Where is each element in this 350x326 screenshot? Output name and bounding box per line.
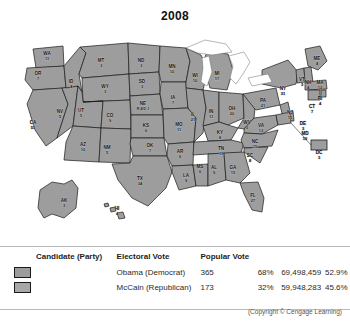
- cell-popular-votes: 69,498,459: [281, 265, 325, 280]
- state-label-WI: WI10: [192, 73, 198, 83]
- results-legend: Candidate (Party) Electoral Vote Popular…: [0, 246, 350, 310]
- color-swatch: [14, 282, 31, 293]
- state-votes-MI: 17: [215, 76, 220, 81]
- state-votes-AZ: 10: [81, 147, 86, 152]
- state-label-NY: NY31: [280, 86, 286, 96]
- state-label-RI: RI4: [318, 96, 323, 106]
- electoral-map-figure: 2008: [0, 0, 350, 326]
- cell-popular-votes: 59,948,283: [281, 280, 325, 295]
- header-candidate: Candidate (Party): [14, 247, 117, 265]
- cell-popular-pct: 52.9%: [325, 265, 350, 280]
- cell-electoral-pct: 68%: [258, 265, 282, 280]
- page-title: 2008: [0, 9, 350, 23]
- legend-swatch-cell: [14, 265, 117, 280]
- cell-candidate: Obama (Democrat): [117, 265, 201, 280]
- state-votes-NE: R-4/D-1: [137, 107, 149, 111]
- state-label-MI: MI17: [214, 71, 220, 81]
- state-label-CT: CT7: [309, 104, 315, 114]
- state-shape-SD: [129, 72, 160, 96]
- table-row: Obama (Democrat)36568%69,498,45952.9%: [14, 265, 350, 280]
- state-shape-CA: [27, 88, 68, 146]
- state-shape-HI-3: [117, 212, 125, 219]
- state-votes-NY: 31: [281, 91, 286, 96]
- header-electoral-vote: Electoral Vote: [117, 247, 201, 265]
- state-votes-CT: 7: [311, 109, 314, 114]
- us-electoral-map: WA11OR7CA55NV5ID4MT3WY3UT5AZ10CO9NM5ND3S…: [0, 22, 350, 237]
- state-votes-IL: 21: [191, 117, 196, 122]
- state-votes-RI: 4: [319, 101, 322, 106]
- dc-callout: [291, 123, 327, 150]
- header-popular-vote: Popular Vote: [200, 247, 257, 265]
- state-votes-SC: 8: [249, 158, 252, 163]
- state-votes-VA: 13: [259, 128, 264, 133]
- state-shape-NE: [130, 94, 163, 115]
- state-votes-GA: 15: [231, 170, 236, 175]
- cell-candidate: McCain (Republican): [117, 280, 201, 295]
- cell-popular-pct: 45.6%: [325, 280, 350, 295]
- results-table: Candidate (Party) Electoral Vote Popular…: [14, 247, 350, 295]
- state-votes-FL: 27: [251, 198, 256, 203]
- state-label-DE: DE3: [300, 121, 306, 131]
- cell-electoral-pct: 32%: [258, 280, 282, 295]
- cell-electoral-votes: 173: [200, 280, 257, 295]
- color-swatch: [14, 267, 31, 278]
- state-shape-AK: [38, 180, 78, 218]
- state-votes-NJ: 15: [288, 115, 293, 120]
- state-votes-PA: 21: [261, 103, 266, 108]
- state-votes-DC: 3: [318, 155, 321, 160]
- state-shape-HI-1: [104, 203, 109, 207]
- copyright-notice: (Copyright © Cengage Learning): [248, 308, 342, 315]
- table-header-row: Candidate (Party) Electoral Vote Popular…: [14, 247, 350, 265]
- state-shape-OR: [25, 66, 66, 90]
- cell-electoral-votes: 365: [200, 265, 257, 280]
- state-votes-OH: 20: [230, 111, 235, 116]
- state-votes-MN: 10: [170, 69, 175, 74]
- legend-swatch-cell: [14, 280, 117, 295]
- table-body: Obama (Democrat)36568%69,498,45952.9%McC…: [14, 265, 350, 295]
- state-label-DC: DC3: [316, 150, 323, 160]
- state-votes-WI: 10: [193, 78, 198, 83]
- state-votes-NC: 15: [253, 144, 258, 149]
- state-label-FL: FL27: [250, 193, 256, 203]
- state-votes-VT: 3: [301, 82, 304, 87]
- table-row: McCain (Republican)17332%59,948,28345.6%: [14, 280, 350, 295]
- dc-swatch: [311, 140, 327, 150]
- state-votes-TX: 34: [138, 181, 143, 186]
- state-votes-CA: 55: [31, 125, 36, 130]
- state-code-NE: NE: [140, 101, 146, 106]
- state-votes-MA: 12: [318, 85, 323, 90]
